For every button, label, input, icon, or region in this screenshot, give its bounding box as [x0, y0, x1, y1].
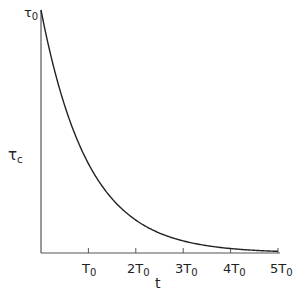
- x-tick-label-5: 5T0: [270, 262, 293, 278]
- y-top-label: τ0: [24, 6, 38, 22]
- x-axis-label: t: [155, 276, 161, 290]
- decay-curve: [41, 10, 278, 251]
- y-top-symbol: τ: [24, 5, 32, 20]
- y-axis-subscript: c: [17, 154, 23, 165]
- y-axis-label: τc: [8, 148, 23, 165]
- x-tick-label-3: 3T0: [175, 262, 198, 278]
- chart-canvas: [0, 0, 296, 294]
- x-tick-label-4: 4T0: [223, 262, 246, 278]
- x-axis-symbol: t: [155, 275, 161, 291]
- x-tick-label-2: 2T0: [127, 262, 150, 278]
- y-axis-symbol: τ: [8, 146, 17, 164]
- x-tick-label-1: T0: [82, 262, 96, 278]
- y-top-subscript: 0: [32, 11, 38, 22]
